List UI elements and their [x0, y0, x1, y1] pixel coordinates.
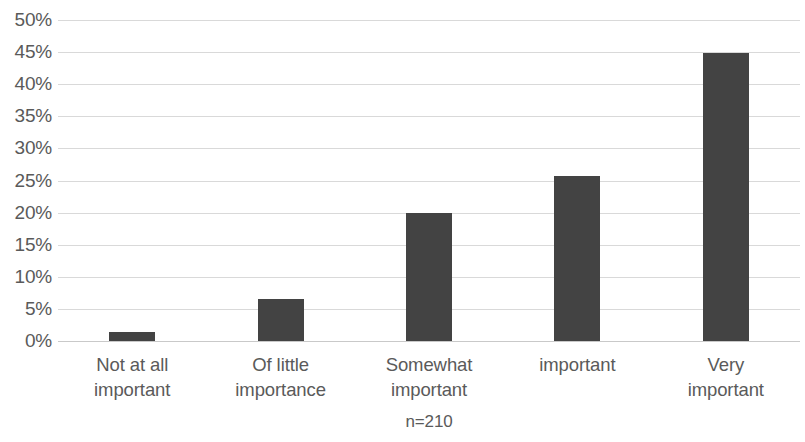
axis-baseline [58, 341, 800, 342]
y-axis-tick-label: 10% [0, 267, 52, 286]
y-axis-tick-label: 15% [0, 235, 52, 254]
x-axis-label-line: importance [206, 377, 354, 402]
y-axis-tick-label: 5% [0, 299, 52, 318]
y-axis-tick-label: 45% [0, 42, 52, 61]
x-axis-category-label: Not at allimportant [58, 352, 206, 402]
x-axis-label-line: important [355, 377, 503, 402]
x-axis-label-line: important [58, 377, 206, 402]
x-axis-category-label: Veryimportant [652, 352, 800, 402]
y-axis-tick-label: 30% [0, 138, 52, 157]
x-axis-category-label: Of littleimportance [206, 352, 354, 402]
bar-series [58, 20, 800, 341]
x-axis-labels: Not at allimportant Of littleimportance … [58, 352, 800, 412]
x-axis-label-line: Of little [206, 352, 354, 377]
bar [703, 53, 749, 341]
y-axis-tick-label: 20% [0, 203, 52, 222]
y-axis-labels: 50% 45% 40% 35% 30% 25% 20% 15% 10% 5% 0… [0, 0, 52, 442]
x-axis-label-line: Somewhat [355, 352, 503, 377]
x-axis-label-line: Not at all [58, 352, 206, 377]
x-axis-label-line: important [652, 377, 800, 402]
bar [554, 176, 600, 341]
bar [406, 213, 452, 341]
bar [109, 332, 155, 341]
x-axis-category-label: Somewhatimportant [355, 352, 503, 402]
bar-chart: 50% 45% 40% 35% 30% 25% 20% 15% 10% 5% 0… [0, 0, 805, 442]
y-axis-tick-label: 35% [0, 106, 52, 125]
x-axis-label-line: important [503, 352, 651, 377]
y-axis-tick-label: 50% [0, 10, 52, 29]
sample-size-annotation: n=210 [58, 412, 800, 432]
x-axis-category-label: important [503, 352, 651, 377]
y-axis-tick-label: 0% [0, 331, 52, 350]
y-axis-tick-label: 40% [0, 74, 52, 93]
plot-area [58, 20, 800, 341]
y-axis-tick-label: 25% [0, 171, 52, 190]
x-axis-label-line: Very [652, 352, 800, 377]
bar [258, 299, 304, 341]
